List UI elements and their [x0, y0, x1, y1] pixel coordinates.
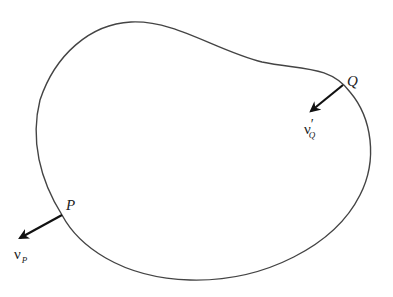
point-label-p: P: [66, 198, 75, 213]
region-boundary-curve: [36, 22, 370, 280]
nu-p-subscript: P: [22, 255, 28, 265]
normal-arrow-p: [20, 215, 62, 238]
nu-q-subscript: Q: [309, 130, 316, 140]
nu-symbol: ν: [14, 246, 21, 262]
vector-label-nu-q-prime: ν′Q: [304, 122, 315, 137]
diagram-canvas: P Q νP ν′Q: [0, 0, 393, 297]
diagram-svg: [0, 0, 393, 297]
normal-arrow-q: [311, 85, 343, 111]
point-label-q: Q: [347, 74, 358, 89]
vector-label-nu-p: νP: [14, 247, 27, 262]
